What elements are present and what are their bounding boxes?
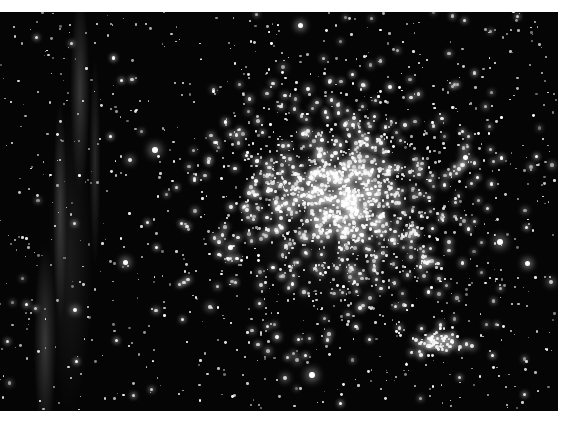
- star: [351, 246, 353, 248]
- star: [130, 78, 133, 81]
- star: [465, 293, 468, 296]
- star: [369, 210, 371, 212]
- star: [60, 73, 61, 74]
- star: [468, 153, 470, 155]
- star: [436, 238, 439, 241]
- star: [386, 202, 389, 205]
- star: [441, 310, 443, 312]
- star: [244, 159, 246, 161]
- star: [8, 381, 11, 384]
- star: [14, 239, 16, 241]
- star: [406, 309, 408, 311]
- star: [426, 59, 428, 61]
- star: [359, 120, 361, 122]
- star: [0, 379, 1, 381]
- star: [236, 236, 239, 239]
- star: [259, 172, 262, 175]
- star: [152, 147, 158, 153]
- star: [260, 148, 262, 150]
- star: [100, 99, 101, 100]
- star: [199, 359, 202, 362]
- star: [323, 72, 326, 75]
- star: [326, 171, 329, 174]
- star: [112, 281, 114, 283]
- star: [278, 395, 281, 398]
- star: [367, 370, 370, 373]
- star: [187, 228, 190, 231]
- star: [288, 164, 290, 166]
- star: [70, 42, 73, 45]
- star: [236, 295, 238, 297]
- star: [439, 113, 441, 115]
- star: [24, 115, 27, 118]
- star: [519, 13, 520, 14]
- star: [308, 93, 310, 95]
- star: [463, 19, 466, 22]
- star: [270, 323, 272, 325]
- star: [447, 52, 450, 55]
- star: [288, 242, 292, 246]
- star: [483, 159, 486, 162]
- star: [163, 307, 165, 309]
- star: [0, 64, 2, 66]
- star: [379, 90, 382, 93]
- star: [312, 300, 314, 302]
- star: [429, 171, 432, 174]
- star: [386, 196, 389, 199]
- star: [362, 269, 365, 272]
- star: [446, 302, 448, 304]
- star: [264, 281, 267, 284]
- star: [427, 354, 429, 356]
- star: [28, 243, 30, 245]
- star: [453, 231, 456, 234]
- star: [435, 266, 437, 268]
- star: [39, 400, 40, 401]
- star: [379, 356, 380, 357]
- star: [163, 12, 165, 13]
- star: [357, 154, 361, 158]
- star: [46, 133, 48, 135]
- star: [345, 152, 347, 154]
- star: [348, 174, 352, 178]
- star: [16, 249, 18, 251]
- star: [526, 157, 527, 158]
- star: [351, 73, 354, 76]
- star: [281, 83, 283, 85]
- star: [405, 232, 408, 235]
- star: [451, 333, 454, 336]
- star: [310, 212, 313, 215]
- star: [365, 224, 367, 226]
- star: [42, 408, 45, 411]
- star: [299, 210, 301, 212]
- star: [269, 188, 273, 192]
- star: [403, 370, 404, 371]
- star: [300, 219, 303, 222]
- star: [294, 97, 298, 101]
- star: [336, 229, 339, 232]
- star: [157, 155, 160, 158]
- star: [292, 239, 295, 242]
- star: [506, 33, 508, 35]
- star: [378, 167, 382, 171]
- star: [386, 246, 388, 248]
- star: [385, 114, 387, 116]
- star: [128, 158, 132, 162]
- star: [320, 138, 323, 141]
- star: [88, 243, 90, 245]
- star: [454, 197, 457, 200]
- star: [353, 338, 354, 339]
- star: [292, 352, 295, 355]
- star: [530, 31, 533, 34]
- star: [246, 331, 249, 334]
- star: [496, 218, 499, 221]
- star: [346, 207, 349, 210]
- star: [228, 42, 230, 44]
- star: [328, 214, 331, 217]
- star: [433, 136, 435, 138]
- star: [137, 273, 138, 274]
- star: [298, 204, 300, 206]
- star: [35, 36, 38, 39]
- star: [417, 234, 420, 237]
- star: [242, 94, 245, 97]
- star: [247, 191, 251, 195]
